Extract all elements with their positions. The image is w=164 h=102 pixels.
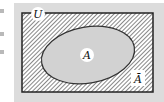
svg-text:U: U [33,8,43,21]
complement-label: Ā [131,70,145,86]
set-a-label: A [80,48,94,62]
svg-text:A: A [82,49,91,62]
universe-label: U [31,7,45,21]
venn-diagram: U A Ā [0,0,164,102]
svg-text:Ā: Ā [133,73,142,86]
